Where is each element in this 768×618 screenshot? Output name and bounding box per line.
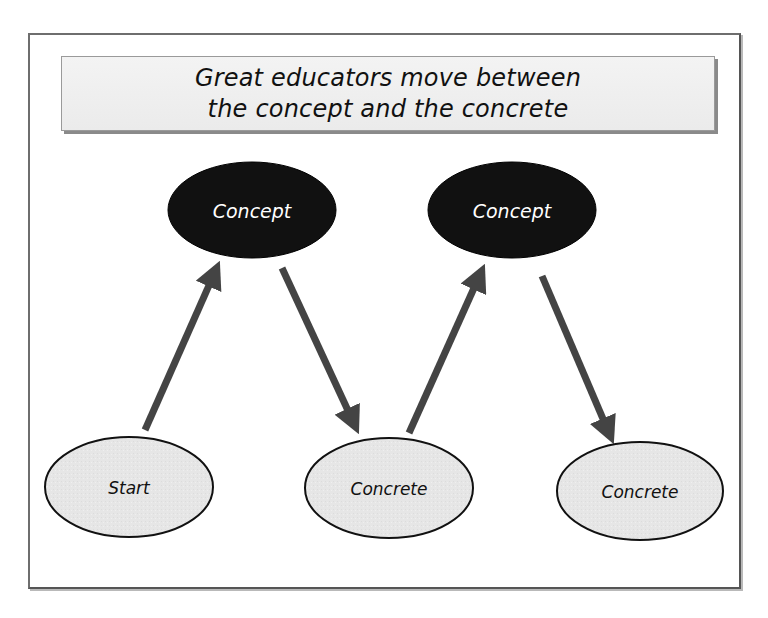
node-label-concrete-2: Concrete <box>602 482 679 502</box>
node-label-concept-1: Concept <box>213 200 292 222</box>
concept-concrete-diagram <box>0 0 768 618</box>
arrow-start-to-concept-1 <box>145 272 215 430</box>
arrow-concrete-1-to-concept-2 <box>409 275 480 433</box>
node-label-concept-2: Concept <box>473 200 552 222</box>
arrow-concept-1-to-concrete-1 <box>282 268 354 423</box>
arrow-concept-2-to-concrete-2 <box>542 276 609 433</box>
node-label-start: Start <box>108 478 150 498</box>
edges <box>145 268 609 433</box>
node-label-concrete-1: Concrete <box>351 479 428 499</box>
